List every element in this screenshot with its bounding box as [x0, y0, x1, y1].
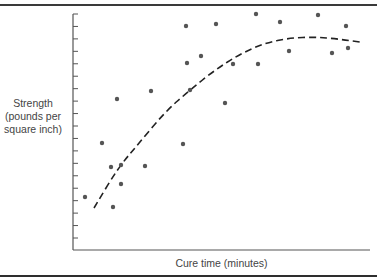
y-axis-label-line-1: Strength	[0, 97, 66, 110]
data-point	[330, 51, 334, 55]
data-point	[181, 142, 185, 146]
data-point	[184, 24, 188, 28]
trend-curve-path	[94, 37, 360, 208]
data-point	[346, 46, 350, 50]
data-point	[188, 88, 192, 92]
y-axis-label-line-2: (pounds per	[0, 110, 66, 123]
data-points	[83, 12, 350, 209]
data-point	[316, 13, 320, 17]
data-point	[143, 164, 147, 168]
trend-curve	[94, 37, 360, 208]
data-point	[287, 49, 291, 53]
data-point	[254, 12, 258, 16]
data-point	[223, 101, 227, 105]
y-axis-label: Strength (pounds per square inch)	[0, 97, 66, 136]
data-point	[109, 165, 113, 169]
data-point	[149, 89, 153, 93]
x-axis-label: Cure time (minutes)	[73, 257, 370, 269]
data-point	[119, 182, 123, 186]
data-point	[185, 61, 189, 65]
data-point	[115, 97, 119, 101]
data-point	[111, 205, 115, 209]
data-point	[199, 54, 203, 58]
data-point	[278, 20, 282, 24]
chart-frame: Strength (pounds per square inch) Cure t…	[0, 0, 377, 279]
data-point	[231, 62, 235, 66]
y-axis-label-line-3: square inch)	[0, 123, 66, 136]
data-point	[214, 22, 218, 26]
data-point	[256, 62, 260, 66]
y-axis-ticks	[73, 14, 78, 238]
axes	[73, 14, 370, 250]
data-point	[344, 24, 348, 28]
bottom-border	[0, 275, 377, 277]
scatter-plot	[0, 0, 377, 279]
data-point	[119, 163, 123, 167]
data-point	[100, 141, 104, 145]
data-point	[83, 195, 87, 199]
